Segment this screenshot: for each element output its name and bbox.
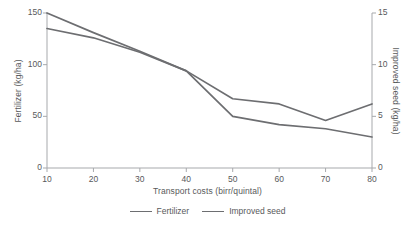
y-axis-right-tick-label: 0 (378, 162, 404, 172)
chart-container: Fertilizer (kg/ha) Improved seed (kg/ha)… (0, 0, 415, 229)
legend-item-fertilizer[interactable]: Fertilizer (130, 206, 190, 216)
y-axis-right-tick-label: 10 (378, 59, 404, 69)
x-axis-tick-label: 80 (359, 174, 385, 184)
legend-swatch-icon (130, 211, 152, 212)
plot-area (0, 0, 415, 229)
legend-item-label: Improved seed (229, 206, 285, 216)
x-axis-tick-label: 40 (173, 174, 199, 184)
x-axis-tick-label: 60 (266, 174, 292, 184)
legend-item-label: Fertilizer (157, 206, 190, 216)
y-axis-left-tick-label: 100 (16, 59, 42, 69)
axis-lines (47, 13, 372, 168)
x-axis-tick-label: 50 (220, 174, 246, 184)
x-axis-tick-label: 70 (313, 174, 339, 184)
x-axis-tick-label: 10 (34, 174, 60, 184)
series-line-fertilizer (47, 13, 372, 137)
y-axis-left-tick-label: 150 (16, 7, 42, 17)
legend-item-improved-seed[interactable]: Improved seed (202, 206, 285, 216)
series-lines (47, 13, 372, 137)
x-axis-tick-label: 20 (80, 174, 106, 184)
y-axis-left-tick-label: 0 (16, 162, 42, 172)
y-axis-left-tick-label: 50 (16, 110, 42, 120)
x-axis-tick-label: 30 (127, 174, 153, 184)
y-axis-right-tick-label: 5 (378, 110, 404, 120)
legend-swatch-icon (202, 211, 224, 212)
series-line-improved-seed (47, 29, 372, 121)
chart-legend: FertilizerImproved seed (0, 206, 415, 216)
y-axis-right-tick-label: 15 (378, 7, 404, 17)
